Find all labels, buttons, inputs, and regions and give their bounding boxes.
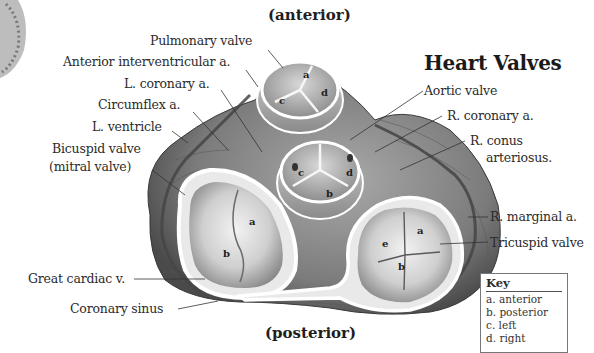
aortic-cusp-d: d — [346, 167, 353, 178]
label-bicuspid-valve: Bicuspid valve — [52, 142, 141, 156]
pulmonary-cusp-a: a — [303, 69, 310, 80]
label-right-coronary-artery: R. coronary a. — [447, 109, 534, 123]
label-right-marginal-artery: R. marginal a. — [490, 210, 577, 224]
legend-title: Key — [486, 276, 562, 292]
mitral-cusp-b: b — [223, 248, 230, 259]
label-arteriosus: arteriosus. — [486, 151, 552, 165]
label-right-conus: R. conus — [470, 134, 523, 148]
label-coronary-sinus: Coronary sinus — [70, 302, 163, 316]
legend-key: Key a. anterior b. posterior c. left d. … — [480, 273, 568, 353]
pulmonary-cusp-d: d — [321, 87, 328, 98]
aortic-cusp-b: b — [326, 188, 333, 199]
diagram-title: Heart Valves — [424, 51, 562, 75]
label-circumflex-artery: Circumflex a. — [98, 98, 180, 112]
legend-item-left: c. left — [486, 319, 562, 332]
tricuspid-cusp-a: a — [417, 225, 424, 236]
pulmonary-valve: a c d — [257, 62, 343, 133]
label-pulmonary-valve: Pulmonary valve — [150, 34, 252, 48]
label-mitral-valve: (mitral valve) — [49, 160, 131, 174]
label-great-cardiac-vein: Great cardiac v. — [28, 272, 125, 286]
label-left-coronary-artery: L. coronary a. — [124, 77, 209, 91]
label-anterior-interventricular-artery: Anterior interventricular a. — [63, 55, 230, 69]
legend-item-posterior: b. posterior — [486, 306, 562, 319]
aortic-cusp-c: c — [298, 167, 304, 178]
tricuspid-cusp-e: e — [382, 238, 388, 249]
partial-illustration-fragment — [0, 0, 26, 78]
orientation-posterior: (posterior) — [265, 324, 356, 342]
label-aortic-valve: Aortic valve — [424, 84, 497, 98]
orientation-anterior: (anterior) — [268, 6, 351, 24]
pulmonary-cusp-c: c — [279, 95, 285, 106]
mitral-cusp-a: a — [249, 216, 256, 227]
aortic-valve: c d b — [277, 142, 363, 219]
legend-item-right: d. right — [486, 332, 562, 345]
label-left-ventricle: L. ventricle — [92, 120, 162, 134]
tricuspid-cusp-b: b — [398, 261, 405, 272]
label-tricuspid-valve: Tricuspid valve — [490, 236, 584, 250]
legend-item-anterior: a. anterior — [486, 293, 562, 306]
